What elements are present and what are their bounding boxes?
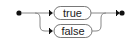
choice-false: false [54,25,92,38]
railroad-diagram: true false [0,0,134,51]
end-dot-icon [119,10,124,15]
merge-line [92,13,106,31]
branch-line [35,13,50,31]
choice-true: true [54,7,91,20]
start-dot-icon [16,10,21,15]
choice-label: false [61,25,84,37]
choice-label: true [63,7,82,19]
